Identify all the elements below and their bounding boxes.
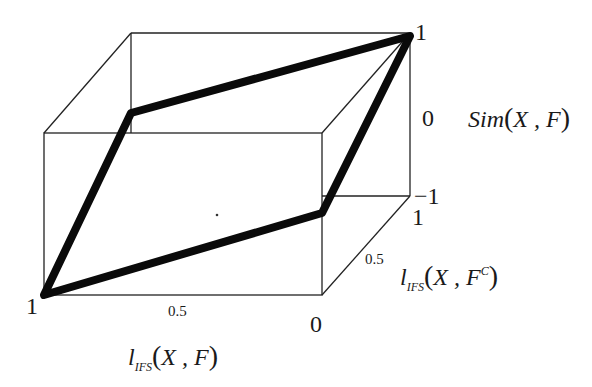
similarity-path <box>44 36 410 295</box>
x-label-args: X , F <box>161 344 208 370</box>
paren-open: ( <box>152 340 161 371</box>
y-label-args: X , F <box>433 264 480 290</box>
z-label-args: X , F <box>513 106 560 132</box>
z-tick-0: 0 <box>422 106 434 130</box>
y-label-fn: l <box>400 264 407 290</box>
center-dot <box>216 214 219 217</box>
x-label-sub: IFS <box>135 360 152 374</box>
x-label-fn: l <box>128 344 135 370</box>
paren-close: ) <box>561 102 570 133</box>
x-tick-1: 1 <box>26 294 38 318</box>
paren-close: ) <box>489 260 498 291</box>
x-tick-05: 0.5 <box>168 304 187 319</box>
top-left-diagonal <box>44 33 131 133</box>
y-label-sub: IFS <box>407 280 424 294</box>
z-axis-label: Sim(X , F) <box>468 104 570 132</box>
box-diagram <box>0 0 592 387</box>
paren-open: ( <box>504 102 513 133</box>
bottom-right-diagonal <box>322 196 410 295</box>
y-axis-label: lIFS(X , FC) <box>400 262 498 293</box>
paren-open: ( <box>424 260 433 291</box>
x-tick-0: 0 <box>310 312 322 336</box>
y-tick-1: 1 <box>412 205 424 229</box>
x-axis-label: lIFS(X , F) <box>128 342 218 373</box>
box-edges <box>44 33 410 295</box>
y-label-sup: C <box>481 264 489 278</box>
y-tick-05: 0.5 <box>365 252 384 267</box>
z-tick-1: 1 <box>415 20 427 44</box>
paren-close: ) <box>209 340 218 371</box>
z-label-fn: Sim <box>468 106 504 132</box>
